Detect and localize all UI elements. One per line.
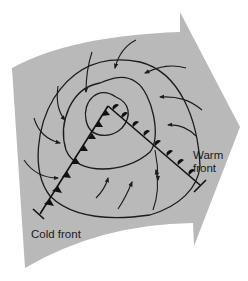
warm-front-label-line1: Warm — [193, 149, 223, 161]
cold-front-label: Cold front — [31, 228, 82, 240]
warm-front-label-line2: front — [193, 162, 217, 174]
cyclone-diagram: Cold front Warm front — [0, 0, 248, 281]
